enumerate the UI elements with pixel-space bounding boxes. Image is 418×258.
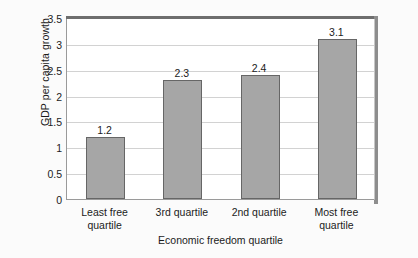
y-axis-tick-label: 1.5: [22, 116, 62, 128]
x-axis-tick-label-line: quartile: [291, 219, 381, 232]
bar-value-label: 1.2: [75, 124, 135, 136]
y-axis-tick-label: 1: [22, 142, 62, 154]
bar-value-label: 2.4: [229, 62, 289, 74]
bar-value-label: 3.1: [306, 26, 366, 38]
y-axis-tick-label: 0: [22, 194, 62, 206]
bar: [86, 137, 125, 199]
y-axis-tick-label: 2: [22, 91, 62, 103]
bar: [318, 39, 357, 199]
y-axis-tick-labels: 00.511.522.533.5: [22, 0, 62, 258]
y-axis-tick-label: 2.5: [22, 65, 62, 77]
x-axis-title: Economic freedom quartile: [66, 234, 375, 246]
plot-area: [66, 19, 375, 200]
bar: [241, 75, 280, 199]
bar-value-label: 2.3: [152, 67, 212, 79]
x-axis-tick-label: Most freequartile: [291, 206, 381, 231]
y-axis-tick-label: 3.5: [22, 13, 62, 25]
y-axis-tick-label: 3: [22, 39, 62, 51]
bar: [163, 80, 202, 199]
bar-chart-figure: GDP per capita growth (annual %), 1990–2…: [0, 0, 418, 258]
y-axis-tick-label: 0.5: [22, 168, 62, 180]
x-axis-tick-label-line: quartile: [60, 219, 150, 232]
x-axis-tick-label-line: Most free: [291, 206, 381, 219]
